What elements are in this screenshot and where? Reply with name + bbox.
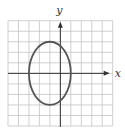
y-axis-label: y (55, 4, 63, 17)
x-axis-arrow-icon (104, 71, 110, 76)
y-axis-arrow-icon (58, 22, 63, 28)
ellipse-plot: x y (0, 0, 125, 138)
x-axis-label: x (115, 67, 122, 80)
